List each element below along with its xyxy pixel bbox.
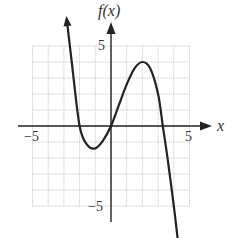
- x-tick-5: 5: [185, 130, 192, 144]
- x-axis: [18, 122, 212, 131]
- curve-arrow-top: [64, 16, 72, 26]
- y-axis-label: f(x): [98, 3, 120, 19]
- x-axis-label: x: [217, 118, 224, 134]
- function-graph: [0, 0, 238, 238]
- y-tick-5: 5: [98, 39, 105, 53]
- y-tick-neg5: −5: [88, 200, 103, 214]
- y-axis: [107, 22, 116, 222]
- x-tick-neg5: −5: [24, 130, 39, 144]
